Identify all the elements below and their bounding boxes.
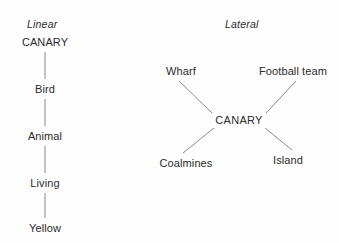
- edge-coalmines-canary: [183, 128, 214, 153]
- edge-wharf-canary: [179, 81, 212, 113]
- edge-island-canary: [265, 128, 292, 150]
- lateral-node-island: Island: [273, 154, 303, 166]
- panel-title-lateral: Lateral: [225, 18, 259, 30]
- edge-football-team-canary: [266, 81, 296, 113]
- linear-node-yellow: Yellow: [29, 222, 61, 234]
- linear-node-animal: Animal: [28, 130, 62, 142]
- linear-node-living: Living: [30, 177, 59, 189]
- linear-node-canary: CANARY: [22, 36, 68, 48]
- lateral-node-coalmines: Coalmines: [160, 157, 213, 169]
- lateral-node-football-team: Football team: [259, 65, 327, 77]
- lateral-node-canary-center: CANARY: [215, 114, 262, 126]
- lateral-node-wharf: Wharf: [166, 65, 196, 77]
- linear-node-bird: Bird: [35, 83, 55, 95]
- panel-title-linear: Linear: [27, 18, 57, 30]
- diagram-canvas: Linear CANARY Bird Animal Living Yellow …: [0, 0, 339, 243]
